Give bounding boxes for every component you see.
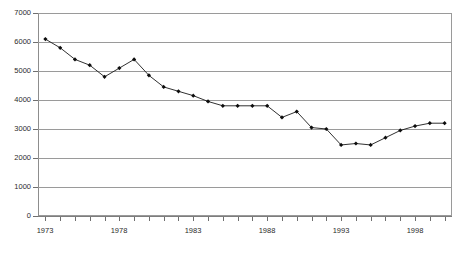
x-axis-tick xyxy=(75,217,76,221)
plot-area xyxy=(38,13,452,216)
x-axis-tick xyxy=(178,217,179,221)
gridline xyxy=(38,42,452,43)
x-axis-tick xyxy=(164,217,165,221)
x-axis-tick-label: 1978 xyxy=(99,226,139,235)
gridline xyxy=(38,187,452,188)
x-axis-tick xyxy=(267,217,268,221)
x-axis-tick xyxy=(371,217,372,221)
y-axis-tick-label: 5000 xyxy=(0,67,31,75)
y-axis-tick xyxy=(33,216,38,217)
x-axis-tick xyxy=(90,217,91,221)
y-axis-tick xyxy=(33,100,38,101)
y-axis-tick-label: 6000 xyxy=(0,38,31,46)
gridline xyxy=(38,13,452,14)
gridline xyxy=(38,129,452,130)
y-axis-tick-label: 0 xyxy=(0,212,31,220)
x-axis-tick-label: 1993 xyxy=(321,226,361,235)
x-axis-tick xyxy=(149,217,150,221)
gridline xyxy=(38,100,452,101)
x-axis-tick xyxy=(223,217,224,221)
x-axis-tick xyxy=(326,217,327,221)
y-axis-tick xyxy=(33,158,38,159)
x-axis-tick xyxy=(134,217,135,221)
x-axis-tick xyxy=(193,217,194,221)
x-axis-tick xyxy=(312,217,313,221)
y-axis-tick xyxy=(33,42,38,43)
x-axis-tick xyxy=(60,217,61,221)
x-axis-tick xyxy=(385,217,386,221)
x-axis-tick xyxy=(252,217,253,221)
x-axis-tick xyxy=(297,217,298,221)
x-axis-tick xyxy=(415,217,416,221)
x-axis-tick-label: 1973 xyxy=(25,226,65,235)
x-axis-tick-label: 1998 xyxy=(395,226,435,235)
gridline xyxy=(38,71,452,72)
x-axis-tick xyxy=(400,217,401,221)
x-axis-tick xyxy=(341,217,342,221)
x-axis-tick xyxy=(430,217,431,221)
x-axis-line xyxy=(38,216,452,217)
x-axis-tick xyxy=(238,217,239,221)
y-axis-tick-label: 7000 xyxy=(0,9,31,17)
y-axis-tick xyxy=(33,71,38,72)
y-axis-tick-label: 1000 xyxy=(0,183,31,191)
y-axis-tick-label: 4000 xyxy=(0,96,31,104)
x-axis-tick-label: 1983 xyxy=(173,226,213,235)
x-axis-tick xyxy=(356,217,357,221)
x-axis-tick xyxy=(208,217,209,221)
y-axis-tick xyxy=(33,13,38,14)
x-axis-tick xyxy=(445,217,446,221)
y-axis-tick xyxy=(33,187,38,188)
line-chart: 01000200030004000500060007000 1973197819… xyxy=(0,0,461,258)
gridline xyxy=(38,158,452,159)
x-axis-tick xyxy=(105,217,106,221)
y-axis-tick-label: 2000 xyxy=(0,154,31,162)
x-axis-tick xyxy=(45,217,46,221)
y-axis-tick xyxy=(33,129,38,130)
y-axis-tick-label: 3000 xyxy=(0,125,31,133)
x-axis-tick xyxy=(119,217,120,221)
x-axis-tick-label: 1988 xyxy=(247,226,287,235)
x-axis-tick xyxy=(282,217,283,221)
